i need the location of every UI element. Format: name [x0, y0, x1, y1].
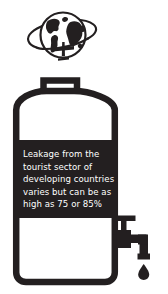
globe-with-orbiting-airplane-icon: [28, 13, 96, 61]
callout-line-4: varies but can be as: [23, 186, 118, 199]
water-droplet-icon: [138, 264, 149, 280]
callout-line-3: developing countries: [23, 173, 118, 186]
callout-line-5: high as 75 or 85%: [23, 198, 118, 211]
callout-line-1: Leakage from the: [23, 148, 118, 161]
infographic-canvas: Leakage from the tourist sector of devel…: [0, 0, 168, 294]
callout-line-2: tourist sector of: [23, 161, 118, 174]
callout-text-band: Leakage from the tourist sector of devel…: [13, 140, 118, 218]
